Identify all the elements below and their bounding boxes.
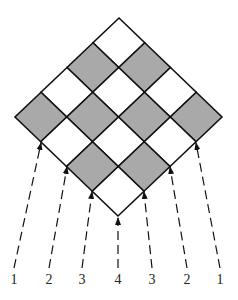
grid-cells (15, 18, 222, 216)
label-3-right: 3 (149, 273, 156, 287)
label-4-center: 4 (115, 273, 122, 287)
dashed-arrow-2 (49, 167, 67, 268)
label-3-left: 3 (79, 273, 86, 287)
dashed-arrow-3 (82, 192, 92, 268)
dashed-arrow-1 (14, 143, 41, 268)
label-1-right: 1 (217, 273, 224, 287)
dashed-arrow-3 (144, 192, 152, 268)
dashed-arrow-2 (170, 167, 187, 268)
diagram-canvas: 1 2 3 4 3 2 1 (0, 0, 238, 300)
label-1-left: 1 (11, 273, 18, 287)
dashed-arrow-1 (196, 143, 220, 268)
label-2-right: 2 (184, 273, 191, 287)
label-2-left: 2 (46, 273, 53, 287)
checkerboard-diamond (0, 0, 238, 300)
